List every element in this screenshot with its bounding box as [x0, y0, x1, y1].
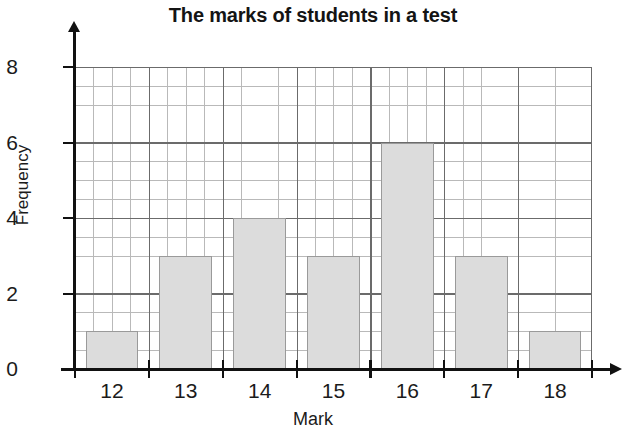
x-axis-tick: [296, 360, 298, 378]
x-axis-tick-label: 18: [518, 380, 592, 401]
x-axis-line: [61, 368, 613, 371]
bar: [86, 331, 139, 369]
x-axis-tick: [517, 360, 519, 378]
y-axis-tick-label: 0: [0, 358, 18, 379]
x-axis-tick: [591, 360, 593, 378]
chart-page: The marks of students in a test 02468 12…: [0, 0, 626, 442]
x-axis-tick: [148, 360, 150, 378]
bar: [381, 143, 434, 370]
y-axis-tick: [63, 293, 76, 295]
x-axis-tick-label: 12: [75, 380, 149, 401]
y-axis-tick-label: 8: [0, 56, 18, 77]
y-axis-arrow-icon: [68, 21, 80, 32]
bar: [529, 331, 582, 369]
x-axis-tick-label: 16: [370, 380, 444, 401]
x-axis-tick-label: 15: [297, 380, 371, 401]
chart-title: The marks of students in a test: [0, 4, 626, 27]
y-axis-tick: [63, 217, 76, 219]
x-axis-arrow-icon: [610, 363, 622, 375]
x-axis-tick-label: 14: [223, 380, 297, 401]
x-axis-tick: [443, 360, 445, 378]
bar: [307, 256, 360, 369]
plot-area: [75, 67, 592, 369]
x-axis-tick: [222, 360, 224, 378]
y-axis-tick: [63, 66, 76, 68]
y-axis-line: [73, 28, 76, 371]
bar: [455, 256, 508, 369]
y-axis-tick-label: 2: [0, 283, 18, 304]
y-axis-title: Frequency: [13, 115, 33, 255]
bar: [159, 256, 212, 369]
bar: [233, 218, 286, 369]
y-axis-tick: [63, 142, 76, 144]
x-axis-tick: [74, 360, 76, 378]
x-axis-tick-label: 13: [149, 380, 223, 401]
grid-right-edge: [591, 67, 592, 369]
x-axis-tick: [369, 360, 371, 378]
x-axis-tick-label: 17: [444, 380, 518, 401]
x-axis-title: Mark: [0, 409, 626, 430]
